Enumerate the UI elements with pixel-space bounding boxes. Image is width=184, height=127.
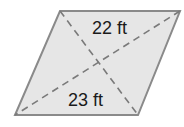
parallelogram-diagram: 22 ft 23 ft bbox=[0, 0, 184, 127]
label-22-ft: 22 ft bbox=[92, 18, 127, 38]
label-23-ft: 23 ft bbox=[68, 90, 103, 110]
